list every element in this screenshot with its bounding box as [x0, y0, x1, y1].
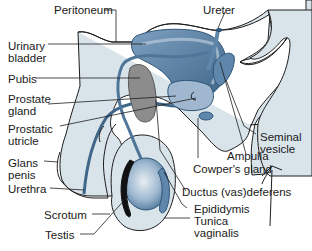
label-scrotum: Scrotum: [44, 209, 87, 221]
label-prostatic-utricle: Prostatic utricle: [8, 123, 53, 147]
label-cowpers-gland: Cowper's gland: [193, 163, 272, 175]
prostate-shape: [168, 80, 214, 110]
label-tunica-vaginalis: Tunica vaginalis: [194, 215, 239, 239]
label-ampulla: Ampulla: [227, 150, 269, 162]
label-epididymis: Epididymis: [194, 203, 250, 215]
label-urinary-bladder: Urinary bladder: [8, 40, 46, 64]
cowpers-gland-shape: [199, 112, 213, 120]
label-prostate-gland: Prostate gland: [8, 93, 51, 117]
label-ductus-deferens: Ductus (vas)deferens: [182, 186, 291, 198]
label-ureter: Ureter: [203, 4, 235, 16]
label-glans-penis: Glans penis: [8, 157, 38, 181]
label-peritoneum: Peritoneum: [54, 4, 113, 16]
label-pubis: Pubis: [8, 73, 37, 85]
ureter-opening: [216, 28, 222, 32]
label-testis: Testis: [45, 229, 74, 241]
label-urethra: Urethra: [8, 183, 46, 195]
